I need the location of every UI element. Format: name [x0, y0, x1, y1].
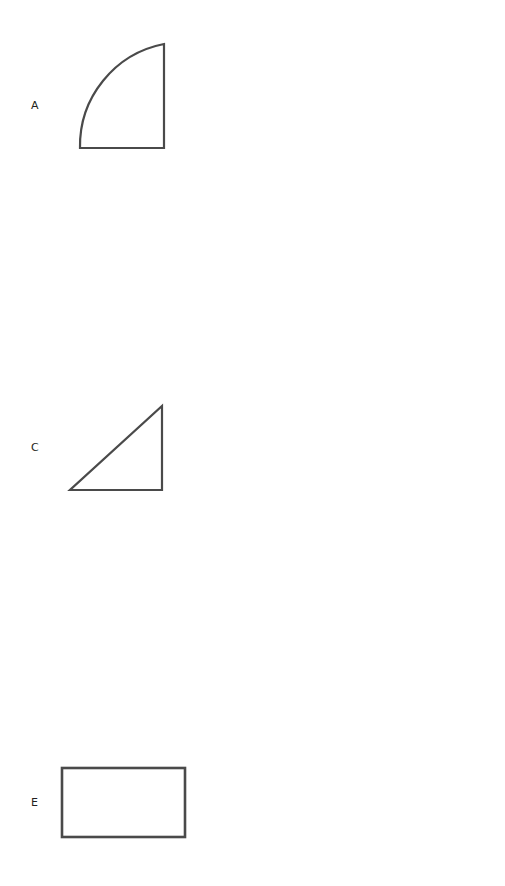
quarter-circle-icon: [72, 36, 172, 156]
shape-cell-j: J: [253, 710, 505, 886]
shape-cell-e: E: [0, 360, 253, 540]
shape-cell-g: G: [0, 530, 253, 710]
worksheet-page: A B C D E F G: [0, 0, 505, 886]
shape-cell-b: B: [253, 0, 505, 180]
shape-cell-i: I: [0, 710, 253, 886]
shape-cell-f: F: [253, 360, 505, 540]
shape-cell-d: D: [253, 180, 505, 360]
shape-cell-a: A: [0, 0, 253, 180]
shape-cell-c: C: [0, 180, 253, 360]
shape-label-a: A: [31, 100, 39, 111]
shape-cell-h: H: [253, 530, 505, 710]
